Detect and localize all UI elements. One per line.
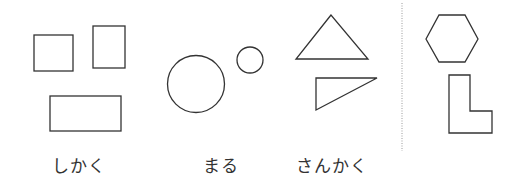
label-square-group: しかく [52, 152, 106, 177]
l-shape [449, 75, 492, 133]
small-circle-shape [237, 47, 263, 73]
label-triangle-group: さんかく [296, 152, 368, 177]
isosceles-triangle-shape [296, 15, 368, 59]
wide-rectangle-shape [50, 96, 121, 131]
tall-rectangle-shape [93, 26, 125, 68]
label-circle-group: まる [203, 152, 239, 177]
hexagon-shape [426, 15, 478, 62]
square-shape [34, 35, 73, 71]
large-circle-shape [168, 56, 225, 113]
right-triangle-shape [316, 78, 377, 110]
